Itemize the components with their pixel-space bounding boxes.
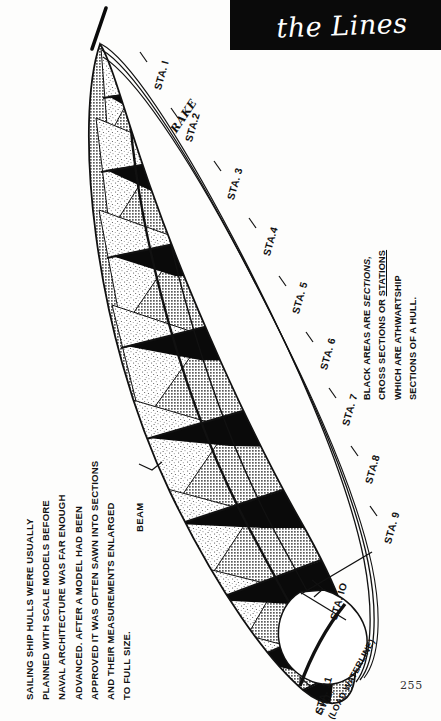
caption-left-line-7: TO FULL SIZE. [121, 631, 132, 700]
page-title: the Lines [251, 1, 433, 52]
caption-left: SAILING SHIP HULLS WERE USUALLY PLANNED … [22, 461, 135, 700]
caption-left-line-3: NAVAL ARCHITECTURE WAS FAR ENOUGH [56, 494, 67, 700]
caption-right-line-1a: BLACK AREAS ARE [362, 307, 372, 400]
caption-left-line-4: ADVANCED. AFTER A MODEL HAD BEEN [73, 506, 84, 700]
caption-right-emphasis: SECTIONS, [362, 256, 372, 307]
stem-mast-stroke [92, 8, 106, 49]
caption-right-line-2a: CROSS SECTIONS OR [377, 296, 387, 400]
beam-label: BEAM [134, 503, 145, 532]
caption-left-line-2: PLANNED WITH SCALE MODELS BEFORE [40, 500, 51, 700]
page-number: 255 [400, 679, 423, 692]
caption-left-line-6: AND THEIR MEASUREMENTS ENLARGED [105, 502, 116, 700]
caption-right-underline: STATIONS [377, 250, 387, 296]
caption-left-line-1: SAILING SHIP HULLS WERE USUALLY [24, 518, 35, 700]
caption-left-line-5: APPROVED IT WAS OFTEN SAWN INTO SECTIONS [89, 461, 100, 700]
caption-right-line-4: SECTIONS OF A HULL. [408, 297, 418, 400]
caption-right: BLACK AREAS ARE SECTIONS, CROSS SECTIONS… [360, 250, 422, 400]
page-canvas: the Lines SAILING SHIP HULLS WERE USUALL… [0, 0, 441, 721]
caption-right-line-3: WHICH ARE ATHWARTSHIP [393, 275, 403, 400]
